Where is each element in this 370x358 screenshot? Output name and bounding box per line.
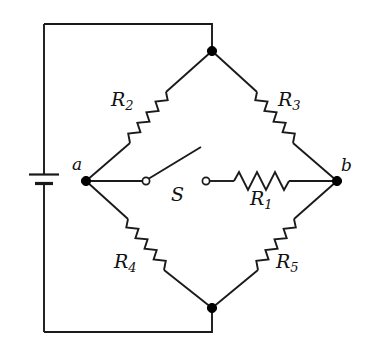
label-resistor-r2: R2 xyxy=(111,90,134,109)
wire-r5-to-b xyxy=(294,181,337,219)
wire-top xyxy=(44,24,212,51)
label-r3-subscript: 3 xyxy=(292,98,300,113)
label-r5-subscript: 5 xyxy=(290,260,298,275)
label-r4-letter: R xyxy=(114,250,128,272)
label-r5-letter: R xyxy=(276,250,290,272)
label-switch-s: S xyxy=(171,185,184,204)
label-r2-subscript: 2 xyxy=(125,98,133,113)
label-resistor-r5: R5 xyxy=(276,252,299,271)
switch-left-terminal[interactable] xyxy=(142,177,149,184)
label-r1-subscript: 1 xyxy=(264,197,272,212)
wire-top-to-r3 xyxy=(212,51,257,92)
circuit-schematic-svg xyxy=(0,0,370,358)
junction-dot-a xyxy=(81,176,90,185)
wire-r3-to-b xyxy=(293,143,337,181)
wire-a-to-r2 xyxy=(86,143,130,181)
switch-right-terminal[interactable] xyxy=(202,177,209,184)
wire-bottom xyxy=(44,308,212,332)
label-resistor-r1: R1 xyxy=(250,189,273,208)
battery-symbol xyxy=(29,175,59,184)
wire-bottom-to-r5 xyxy=(212,270,258,308)
wire-r4-to-bottom xyxy=(164,270,212,308)
label-r2-letter: R xyxy=(111,88,125,110)
wire-r2-to-top xyxy=(166,51,212,92)
label-r1-letter: R xyxy=(250,187,264,209)
label-node-b: b xyxy=(341,157,352,174)
label-r3-letter: R xyxy=(278,88,292,110)
junction-dot-top xyxy=(207,46,216,55)
label-r4-subscript: 4 xyxy=(128,260,136,275)
wire-a-to-r4 xyxy=(86,181,128,219)
resistor-r2-zigzag xyxy=(128,92,168,143)
circuit-diagram: a b S R1 R2 R3 R4 R5 xyxy=(0,0,370,358)
label-node-a: a xyxy=(72,156,82,173)
switch-blade[interactable] xyxy=(149,147,201,179)
label-resistor-r3: R3 xyxy=(278,90,301,109)
junction-dot-bottom xyxy=(207,303,216,312)
label-resistor-r4: R4 xyxy=(114,252,137,271)
junction-dot-b xyxy=(332,176,341,185)
